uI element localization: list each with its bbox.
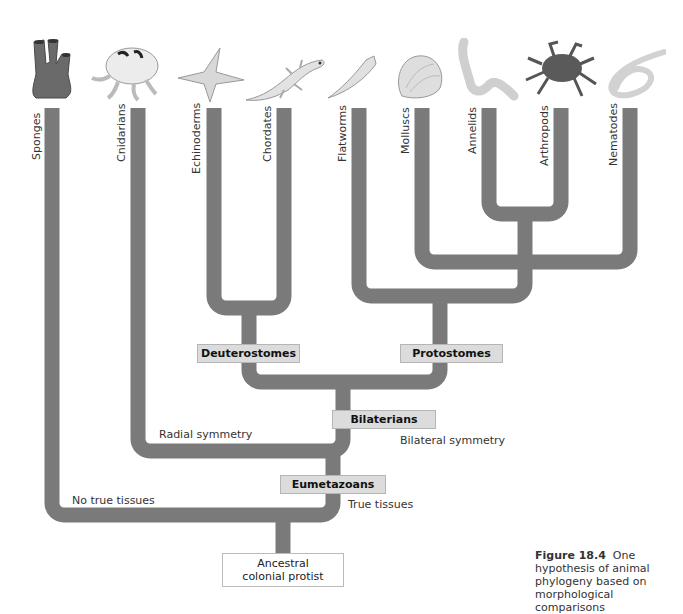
clade-deuterostomes: Deuterostomes [197, 344, 300, 363]
taxon-label-arthropods: Arthropods [538, 105, 551, 166]
jellyfish-icon [88, 44, 162, 102]
figure-caption: Figure 18.4 One hypothesis of animal phy… [535, 549, 683, 614]
root-line-2: colonial protist [223, 570, 343, 583]
trait-true-tissues: True tissues [348, 498, 413, 511]
salamander-icon [244, 52, 328, 102]
flatworm-icon [326, 52, 380, 100]
taxon-label-nematodes: Nematodes [607, 103, 620, 166]
root-ancestral-protist: Ancestral colonial protist [222, 553, 344, 587]
clade-eumetazoans: Eumetazoans [280, 475, 386, 494]
clade-protostomes: Protostomes [400, 344, 503, 363]
taxon-label-flatworms: Flatworms [336, 105, 349, 162]
shell-icon [396, 52, 446, 100]
crab-icon [520, 40, 602, 102]
clade-bilaterians: Bilaterians [332, 410, 436, 429]
taxon-label-molluscs: Molluscs [399, 107, 412, 154]
sponge-icon [26, 34, 78, 100]
branch-cnidarians [138, 108, 343, 451]
taxon-label-cnidarians: Cnidarians [115, 104, 128, 162]
taxon-label-sponges: Sponges [30, 113, 43, 160]
roundworm-icon [604, 48, 666, 102]
root-line-1: Ancestral [223, 557, 343, 570]
taxon-label-annelids: Annelids [466, 107, 479, 154]
starfish-icon [176, 44, 246, 102]
trait-no-true-tissues: No true tissues [72, 494, 155, 507]
segmented-worm-icon [458, 38, 520, 102]
trait-bilateral-symmetry: Bilateral symmetry [400, 434, 505, 447]
trait-radial-symmetry: Radial symmetry [159, 428, 252, 441]
taxon-label-echinoderms: Echinoderms [190, 103, 203, 174]
taxon-label-chordates: Chordates [261, 106, 274, 162]
figure-number: Figure 18.4 [535, 549, 606, 562]
